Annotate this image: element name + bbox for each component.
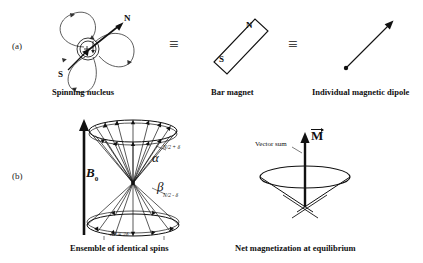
net-magnetization-caption: Net magnetization at equilibrium bbox=[235, 244, 356, 253]
magnetization-cone-icon bbox=[0, 0, 423, 263]
vector-sum-label: Vector sum bbox=[255, 141, 287, 148]
vector-overline-arrow-icon bbox=[311, 129, 323, 130]
magnetization-vector-label: M bbox=[311, 128, 323, 142]
nmr-figure: (a) bbox=[0, 0, 423, 263]
magnetization-vector-wrap: M bbox=[311, 128, 323, 142]
